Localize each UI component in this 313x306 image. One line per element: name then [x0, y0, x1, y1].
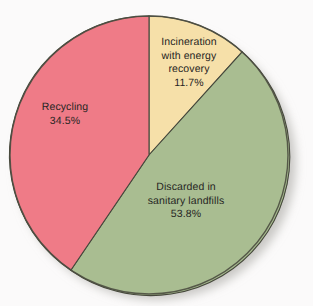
pie-chart-graphic — [0, 0, 313, 306]
pie-chart-figure: Incineration with energy recovery 11.7% … — [0, 0, 313, 306]
